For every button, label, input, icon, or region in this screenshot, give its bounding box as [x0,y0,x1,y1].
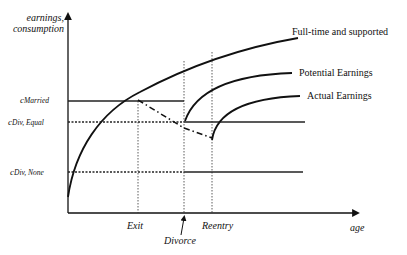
y-axis-label: earnings, consumption [4,12,64,34]
c-married-label: cMarried [20,94,49,106]
diagram-canvas [0,0,407,255]
full-time-label: Full-time and supported [292,26,388,37]
c-div-equal-subscript: Div, Equal [12,118,44,127]
post-divorce-decline-curve [184,128,212,138]
c-div-none-subscript: Div, None [14,168,44,177]
divorce-arrow [181,218,184,235]
c-div-none-label: cDiv, None [10,166,44,178]
full-time-curve [68,38,298,197]
y-axis-label-line2: consumption [4,23,64,34]
exit-label: Exit [127,220,143,231]
actual-earnings-label: Actual Earnings [307,90,372,101]
x-axis-label: age [350,222,364,233]
y-axis-label-line1: earnings, [4,12,64,23]
actual-earnings-curve [212,96,300,140]
c-div-equal-label: cDiv, Equal [8,116,44,128]
exit-decline-curve [138,100,184,128]
potential-earnings-label: Potential Earnings [299,67,373,78]
c-married-subscript: Married [24,96,49,105]
reentry-label: Reentry [202,220,233,231]
divorce-label: Divorce [164,235,196,246]
